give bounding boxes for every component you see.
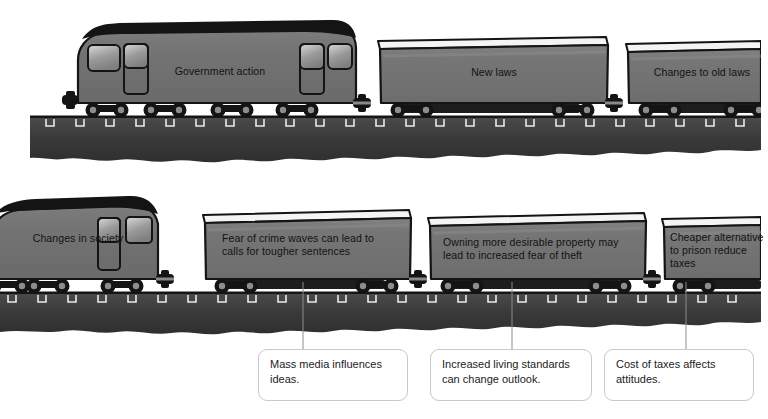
label-changes-in-society: Changes in society <box>8 232 148 245</box>
callout-cost-of-taxes[interactable]: Cost of taxes affects attitudes. <box>604 349 754 401</box>
label-fear-of-crime: Fear of crime waves can lead to calls fo… <box>222 232 402 258</box>
label-changes-to-old-laws: Changes to old laws <box>636 66 768 79</box>
callout-living-standards[interactable]: Increased living standards can change ou… <box>430 349 592 401</box>
label-government-action: Government action <box>150 65 290 78</box>
label-desirable-property: Owning more desirable property may lead … <box>443 236 639 262</box>
wagon-changes-to-old-laws[interactable] <box>626 41 761 118</box>
label-cheaper-alternative: Cheaper alternative to prison reduce tax… <box>670 231 765 270</box>
label-new-laws: New laws <box>424 66 564 79</box>
callout-mass-media[interactable]: Mass media influences ideas. <box>258 349 408 401</box>
